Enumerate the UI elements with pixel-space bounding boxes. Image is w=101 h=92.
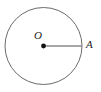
center-point-label-o: O	[34, 30, 42, 41]
center-point-dot	[41, 44, 46, 49]
circle-diagram: O A	[0, 0, 101, 92]
point-label-a: A	[86, 39, 93, 50]
